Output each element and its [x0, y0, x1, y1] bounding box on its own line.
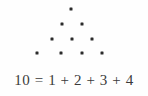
equation-caption: 10 = 1 + 2 + 3 + 4 — [0, 68, 148, 92]
dot-row-4-item-3 — [81, 52, 84, 55]
dot-row-3-item-1 — [51, 38, 54, 41]
dot-row-2-item-1 — [61, 23, 64, 26]
dot-row-4-item-1 — [36, 52, 39, 55]
equation-text: 10 = 1 + 2 + 3 + 4 — [14, 73, 134, 88]
dot-row-1-item-1 — [70, 8, 73, 11]
triangular-number-figure: 10 = 1 + 2 + 3 + 4 — [0, 0, 148, 96]
dot-row-4-item-4 — [101, 52, 104, 55]
dot-row-2-item-2 — [81, 23, 84, 26]
dot-row-4-item-2 — [60, 52, 63, 55]
dot-array — [0, 0, 148, 62]
dot-row-3-item-2 — [71, 38, 74, 41]
dot-row-3-item-3 — [91, 38, 94, 41]
